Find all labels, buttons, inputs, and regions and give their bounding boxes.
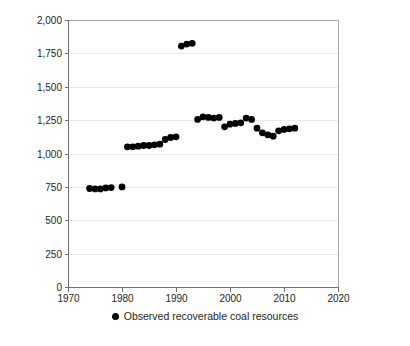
y-axis-ticks: 02505007501,0001,2501,5001,7502,000 [37,15,69,293]
data-point-0-23 [216,114,223,121]
chart-plot-area: 02505007501,0001,2501,5001,7502,000 1970… [0,0,410,346]
data-point-0-37 [291,125,298,132]
data-point-0-5 [119,183,126,190]
x-tick-label-2010: 2010 [273,293,296,304]
y-tick-label-0: 0 [56,282,62,293]
y-tick-label-1500: 1,500 [37,82,62,93]
y-tick-label-750: 750 [45,182,62,193]
y-tick-label-1750: 1,750 [37,48,62,59]
data-point-0-30 [254,125,261,132]
data-point-0-33 [270,133,277,140]
data-point-0-27 [237,119,244,126]
y-tick-label-250: 250 [45,249,62,260]
data-point-0-12 [156,141,163,148]
data-point-0-4 [108,184,115,191]
x-tick-label-1990: 1990 [165,293,188,304]
x-tick-label-1970: 1970 [57,293,80,304]
y-tick-label-1000: 1,000 [37,149,62,160]
legend-item-label: Observed recoverable coal resources [124,311,299,322]
data-point-0-29 [248,116,255,123]
x-tick-label-1980: 1980 [111,293,134,304]
data-point-0-15 [173,133,180,140]
y-tick-label-500: 500 [45,215,62,226]
y-tick-label-2000: 2,000 [37,15,62,26]
data-point-0-18 [189,40,196,47]
data-points-group [86,40,298,192]
y-tick-label-1250: 1,250 [37,115,62,126]
legend-marker-icon [112,313,119,320]
gridlines-group [68,21,338,255]
x-tick-label-2020: 2020 [327,293,350,304]
x-tick-label-2000: 2000 [219,293,242,304]
x-axis-ticks: 197019801990200020102020 [57,288,350,305]
coal-resources-scatter-chart: 02505007501,0001,2501,5001,7502,000 1970… [0,0,410,346]
chart-legend: Observed recoverable coal resources [0,311,410,322]
